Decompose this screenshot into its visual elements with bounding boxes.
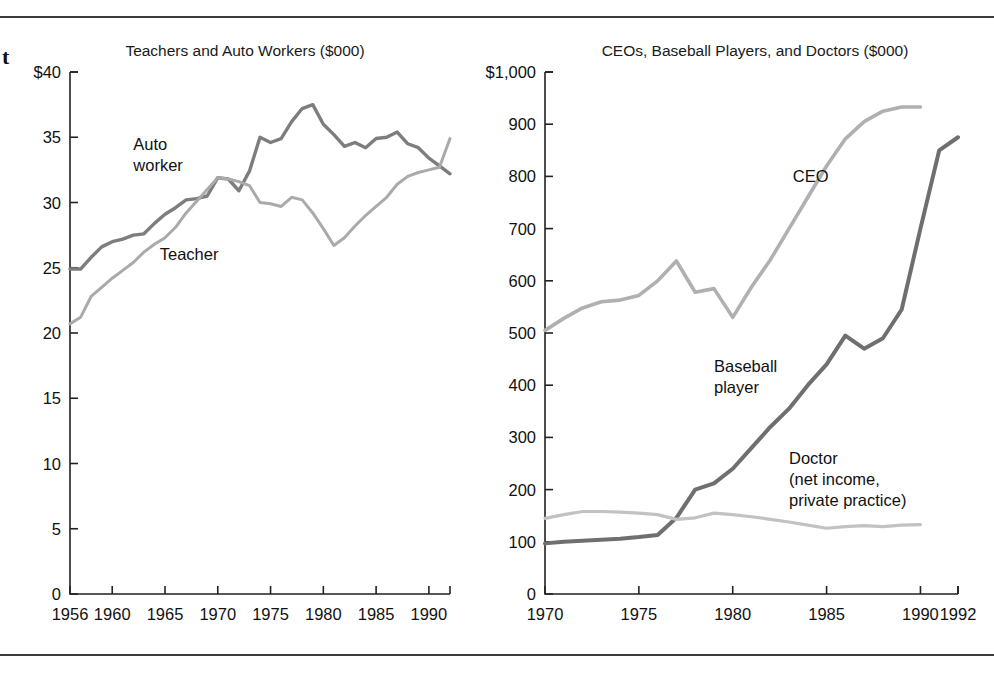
- x-tick-label: 1975: [621, 605, 658, 623]
- y-tick-label: 10: [43, 455, 61, 473]
- axis-lines: [70, 72, 450, 594]
- series-label-line: (net income,: [789, 470, 880, 488]
- x-tick-label: 1970: [199, 605, 236, 623]
- series-label-line: Auto: [133, 135, 167, 153]
- series-label: Doctor(net income,private practice): [789, 449, 906, 509]
- series-label-line: Doctor: [789, 449, 838, 467]
- series-label: CEO: [793, 167, 829, 185]
- chart-panel-teachers-auto-workers: Teachers and Auto Workers ($000)05101520…: [20, 28, 470, 638]
- series-label-line: private practice): [789, 491, 906, 509]
- x-tick-label: 1965: [147, 605, 184, 623]
- chart-title: CEOs, Baseball Players, and Doctors ($00…: [602, 42, 909, 59]
- series-line: [545, 137, 958, 543]
- chart-svg-teachers-auto-workers: Teachers and Auto Workers ($000)05101520…: [20, 28, 470, 638]
- series-label-line: CEO: [793, 167, 829, 185]
- x-tick-label: 1992: [940, 605, 977, 623]
- y-tick-label: 0: [52, 585, 61, 603]
- series-label-line: Baseball: [714, 357, 777, 375]
- page-rule-bottom: [0, 654, 994, 656]
- y-tick-label: 30: [43, 194, 61, 212]
- series-label: Autoworker: [132, 135, 183, 174]
- x-tick-label: 1990: [902, 605, 939, 623]
- y-tick-label: 700: [508, 220, 536, 238]
- y-tick-label: 800: [508, 167, 536, 185]
- y-tick-label: 5: [52, 520, 61, 538]
- y-tick-label: 15: [43, 389, 61, 407]
- x-tick-label: 1975: [252, 605, 289, 623]
- y-tick-label: 20: [43, 324, 61, 342]
- series-label-line: Teacher: [160, 245, 219, 263]
- series-line: [545, 512, 920, 529]
- y-tick-label: 300: [508, 428, 536, 446]
- x-tick-label: 1990: [411, 605, 448, 623]
- chart-title: Teachers and Auto Workers ($000): [125, 42, 364, 59]
- x-tick-label: 1956: [52, 605, 89, 623]
- y-tick-label: 500: [508, 324, 536, 342]
- series-label: Baseballplayer: [714, 357, 777, 396]
- x-tick-label: 1985: [358, 605, 395, 623]
- x-tick-label: 1980: [714, 605, 751, 623]
- y-tick-label: 600: [508, 272, 536, 290]
- y-tick-label: 25: [43, 259, 61, 277]
- x-tick-label: 1970: [527, 605, 564, 623]
- y-tick-label: $1,000: [486, 63, 536, 81]
- y-tick-label: 0: [527, 585, 536, 603]
- x-tick-label: 1980: [305, 605, 342, 623]
- x-tick-label: 1960: [94, 605, 131, 623]
- y-tick-label: 35: [43, 128, 61, 146]
- y-tick-label: 900: [508, 115, 536, 133]
- series-label-line: player: [714, 378, 759, 396]
- x-tick-label: 1985: [808, 605, 845, 623]
- y-tick-label: 100: [508, 533, 536, 551]
- series-label-line: worker: [132, 156, 183, 174]
- body-text-fragment: t: [2, 46, 9, 68]
- y-tick-label: 400: [508, 376, 536, 394]
- chart-panel-ceos-baseball-doctors: CEOs, Baseball Players, and Doctors ($00…: [470, 28, 980, 638]
- series-label: Teacher: [160, 245, 219, 263]
- series-line: [70, 139, 450, 324]
- y-tick-label: 200: [508, 481, 536, 499]
- y-tick-label: $40: [33, 63, 61, 81]
- chart-svg-ceos-baseball-doctors: CEOs, Baseball Players, and Doctors ($00…: [470, 28, 980, 638]
- series-line: [70, 105, 450, 269]
- page-rule-top: [0, 16, 994, 18]
- series-line: [545, 107, 920, 330]
